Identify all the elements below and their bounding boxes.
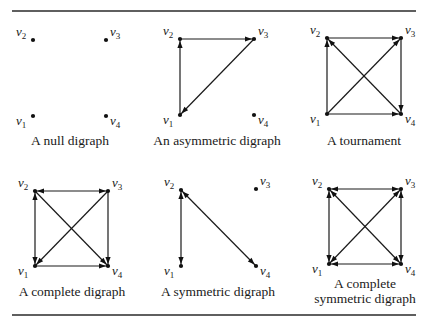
vertex-v2 bbox=[325, 36, 329, 40]
arrowhead-icon bbox=[99, 188, 106, 193]
edge-v2-v3 bbox=[35, 188, 108, 193]
vertex-label-v1: v1 bbox=[164, 263, 174, 280]
arrowhead-icon bbox=[392, 261, 399, 266]
arrowhead-icon bbox=[392, 111, 399, 116]
vertex-label-v2: v2 bbox=[310, 22, 320, 39]
vertex-v3 bbox=[254, 187, 258, 191]
edge-v2-v3 bbox=[180, 36, 254, 41]
symmetric-digraph: v1v2v3v4A symmetric digraph bbox=[161, 173, 275, 299]
vertex-label-v3: v3 bbox=[110, 24, 121, 41]
edge-v1-v2 bbox=[326, 189, 331, 264]
vertex-label-v4: v4 bbox=[260, 263, 271, 280]
caption: A tournament bbox=[327, 133, 401, 148]
edge-v1-v4 bbox=[329, 261, 401, 266]
edge-v1-v2 bbox=[177, 39, 182, 115]
vertex-v2 bbox=[327, 187, 331, 191]
vertex-v1 bbox=[327, 262, 331, 266]
vertex-v1 bbox=[325, 112, 329, 116]
vertex-v3 bbox=[252, 37, 256, 41]
caption: A complete digraph bbox=[19, 284, 126, 299]
vertex-v1 bbox=[178, 113, 182, 117]
arrowhead-icon bbox=[99, 263, 106, 268]
vertex-label-v1: v1 bbox=[312, 261, 322, 278]
asymmetric-digraph: v1v2v3v4An asymmetric digraph bbox=[153, 23, 281, 148]
arrowhead-icon bbox=[326, 255, 331, 262]
arrowhead-icon bbox=[398, 105, 403, 112]
vertex-label-v4: v4 bbox=[405, 111, 416, 128]
arrowhead-icon bbox=[398, 255, 403, 262]
arrowhead-icon bbox=[324, 40, 329, 47]
arrowhead-icon bbox=[32, 193, 37, 200]
vertex-v3 bbox=[399, 36, 403, 40]
caption: symmetric digraph bbox=[314, 291, 416, 306]
vertex-label-v1: v1 bbox=[16, 113, 26, 130]
tournament: v1v2v3v4A tournament bbox=[310, 22, 416, 148]
vertex-v2 bbox=[31, 38, 35, 42]
vertex-v4 bbox=[104, 114, 108, 118]
vertex-label-v3: v3 bbox=[260, 173, 271, 190]
vertex-v3 bbox=[106, 189, 110, 193]
edge-v2-v4 bbox=[181, 190, 256, 266]
arrowhead-icon bbox=[105, 257, 110, 264]
edge-v1-v2 bbox=[32, 191, 37, 266]
vertex-label-v2: v2 bbox=[312, 173, 322, 190]
vertex-v4 bbox=[399, 112, 403, 116]
vertex-label-v4: v4 bbox=[405, 261, 416, 278]
vertex-label-v2: v2 bbox=[18, 175, 28, 192]
digraph-types-figure: v1v2v3v4A null digraphv1v2v3v4An asymmet… bbox=[0, 0, 436, 326]
vertex-v2 bbox=[33, 189, 37, 193]
arrowhead-icon bbox=[331, 186, 338, 191]
arrowhead-icon bbox=[32, 257, 37, 264]
arrowhead-icon bbox=[392, 186, 399, 191]
arrowhead-icon bbox=[326, 191, 331, 198]
vertex-label-v4: v4 bbox=[112, 263, 123, 280]
caption: A null digraph bbox=[31, 133, 109, 148]
vertex-v3 bbox=[399, 187, 403, 191]
vertex-v2 bbox=[179, 188, 183, 192]
vertex-v1 bbox=[179, 264, 183, 268]
vertex-label-v2: v2 bbox=[16, 24, 26, 41]
complete-digraph: v1v2v3v4A complete digraph bbox=[18, 175, 125, 299]
arrowhead-icon bbox=[178, 257, 183, 264]
null-digraph: v1v2v3v4A null digraph bbox=[16, 24, 121, 148]
vertex-label-v4: v4 bbox=[258, 112, 269, 129]
arrowhead-icon bbox=[177, 41, 182, 48]
arrowhead-icon bbox=[178, 192, 183, 199]
vertex-v4 bbox=[254, 264, 258, 268]
vertex-v2 bbox=[178, 37, 182, 41]
edge-v3-v4 bbox=[105, 191, 110, 266]
vertex-label-v1: v1 bbox=[310, 111, 320, 128]
vertex-label-v4: v4 bbox=[110, 113, 121, 130]
caption: A complete bbox=[334, 276, 396, 291]
vertex-label-v3: v3 bbox=[405, 22, 416, 39]
arrowhead-icon bbox=[392, 35, 399, 40]
edge-v3-v4 bbox=[398, 189, 403, 264]
edge-v1-v4 bbox=[327, 111, 401, 116]
arrowhead-icon bbox=[331, 261, 338, 266]
edge-v2-v3 bbox=[329, 186, 401, 191]
vertex-label-v2: v2 bbox=[163, 23, 173, 40]
caption: A symmetric digraph bbox=[161, 284, 275, 299]
vertex-label-v3: v3 bbox=[405, 173, 416, 190]
vertex-label-v3: v3 bbox=[112, 175, 123, 192]
digraph-panels: v1v2v3v4A null digraphv1v2v3v4An asymmet… bbox=[16, 22, 416, 306]
edge-v3-v1 bbox=[180, 39, 254, 115]
edge-v2-v3 bbox=[327, 35, 401, 40]
vertex-v4 bbox=[252, 113, 256, 117]
vertex-v1 bbox=[31, 114, 35, 118]
arrowhead-icon bbox=[398, 191, 403, 198]
vertex-label-v2: v2 bbox=[164, 174, 174, 191]
vertex-v4 bbox=[106, 264, 110, 268]
vertex-v3 bbox=[104, 38, 108, 42]
vertex-v4 bbox=[399, 262, 403, 266]
vertex-label-v1: v1 bbox=[163, 112, 173, 129]
vertex-label-v1: v1 bbox=[18, 263, 28, 280]
edge-v1-v2 bbox=[324, 38, 329, 114]
caption: An asymmetric digraph bbox=[153, 133, 281, 148]
rule-lines bbox=[12, 11, 416, 315]
edge-v1-v2 bbox=[178, 190, 183, 266]
arrowhead-icon bbox=[245, 36, 252, 41]
arrowhead-icon bbox=[37, 188, 44, 193]
edge-v1-v4 bbox=[35, 263, 108, 268]
edge-v3-v4 bbox=[398, 38, 403, 114]
